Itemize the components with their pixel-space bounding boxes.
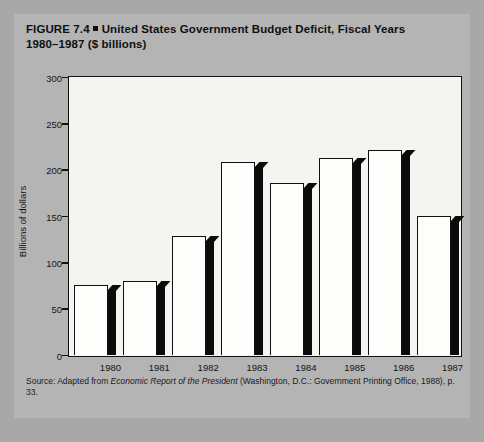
figure-card: FIGURE 7.4United States Government Budge…: [14, 14, 470, 418]
source-prefix: Source: Adapted from: [26, 376, 111, 386]
y-tick-label: 300: [2, 72, 62, 83]
bar-face-1985: [319, 158, 353, 354]
source-note: Source: Adapted from Economic Report of …: [26, 376, 458, 398]
bar-shadow-1981: [156, 286, 165, 354]
bar-shadow-1987: [450, 221, 459, 355]
bar-face-1981: [123, 281, 157, 354]
bar-face-1982: [172, 236, 206, 355]
y-tick-label: 200: [2, 165, 62, 176]
bar-face-1987: [417, 216, 451, 355]
figure-title-line2: 1980–1987 ($ billions): [26, 38, 146, 50]
bar-face-1980: [74, 285, 108, 355]
bar-shadow-1985: [352, 163, 361, 354]
y-tick-label: 250: [2, 118, 62, 129]
plot-frame: [68, 76, 462, 357]
chart-plot-area: Billions of dollars 050100150200250300 1…: [68, 76, 462, 370]
source-title: Economic Report of the President: [111, 376, 238, 386]
title-bullet-icon: [93, 26, 98, 31]
figure-title-line1: United States Government Budget Deficit,…: [102, 23, 406, 35]
y-tick-label: 150: [2, 211, 62, 222]
y-tick-label: 0: [2, 350, 62, 361]
figure-number: FIGURE 7.4: [26, 23, 90, 35]
figure-title: FIGURE 7.4United States Government Budge…: [26, 22, 456, 52]
bar-shadow-1980: [107, 290, 116, 355]
bar-shadow-1984: [303, 188, 312, 354]
bar-shadow-1986: [401, 155, 410, 355]
bar-shadow-1982: [205, 241, 214, 355]
bar-face-1983: [221, 162, 255, 355]
bar-face-1984: [270, 183, 304, 354]
bar-shadow-1983: [254, 167, 263, 355]
x-tick-label-1987: 1987: [423, 362, 483, 373]
bars-layer: [71, 79, 460, 355]
bar-face-1986: [368, 150, 402, 355]
y-tick-label: 100: [2, 257, 62, 268]
y-tick-label: 50: [2, 304, 62, 315]
